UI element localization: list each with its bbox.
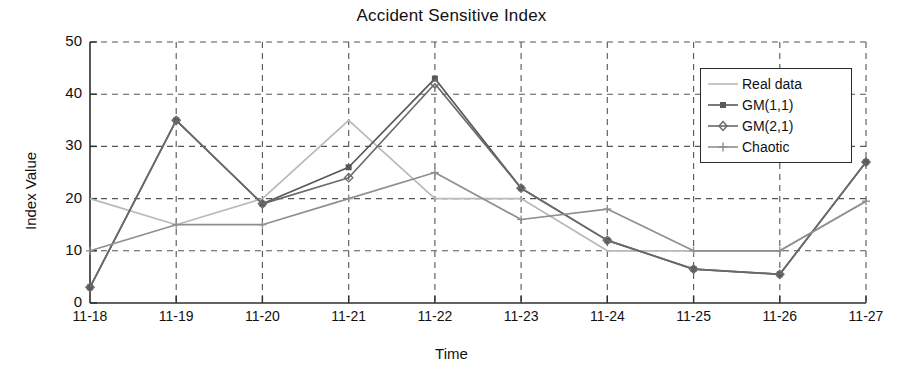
legend-swatch-square-icon [707, 98, 739, 112]
y-tick-label: 10 [65, 241, 82, 258]
x-tick-label: 11-21 [314, 308, 384, 324]
x-tick-label: 11-26 [745, 308, 815, 324]
legend-item-chaotic[interactable]: Chaotic [707, 136, 845, 157]
legend-item-gm11[interactable]: GM(1,1) [707, 94, 845, 115]
data-series-chaotic [86, 169, 870, 255]
legend-item-real-data[interactable]: Real data [707, 73, 845, 94]
legend-swatch-diamond-icon [707, 119, 739, 133]
y-tick-label: 30 [65, 136, 82, 153]
legend-label: Real data [739, 76, 802, 92]
x-tick-label: 11-23 [486, 308, 556, 324]
x-tick-label: 11-25 [659, 308, 729, 324]
x-tick-label: 11-24 [572, 308, 642, 324]
legend-label: GM(2,1) [739, 118, 793, 134]
x-tick-label: 11-19 [141, 308, 211, 324]
y-tick-label: 40 [65, 84, 82, 101]
x-tick-label: 11-20 [227, 308, 297, 324]
legend-label: Chaotic [739, 139, 789, 155]
chart-figure: Accident Sensitive Index Index Value Tim… [0, 0, 903, 378]
legend-swatch-line-icon [707, 77, 739, 91]
y-tick-label: 20 [65, 189, 82, 206]
chart-legend[interactable]: Real data GM(1,1) GM(2,1) Chaotic [700, 68, 852, 163]
x-tick-label: 11-18 [55, 308, 125, 324]
legend-label: GM(1,1) [739, 97, 793, 113]
x-tick-label: 11-22 [400, 308, 470, 324]
x-tick-label: 11-27 [831, 308, 901, 324]
y-tick-label: 50 [65, 32, 82, 49]
legend-swatch-plus-icon [707, 140, 739, 154]
legend-item-gm21[interactable]: GM(2,1) [707, 115, 845, 136]
